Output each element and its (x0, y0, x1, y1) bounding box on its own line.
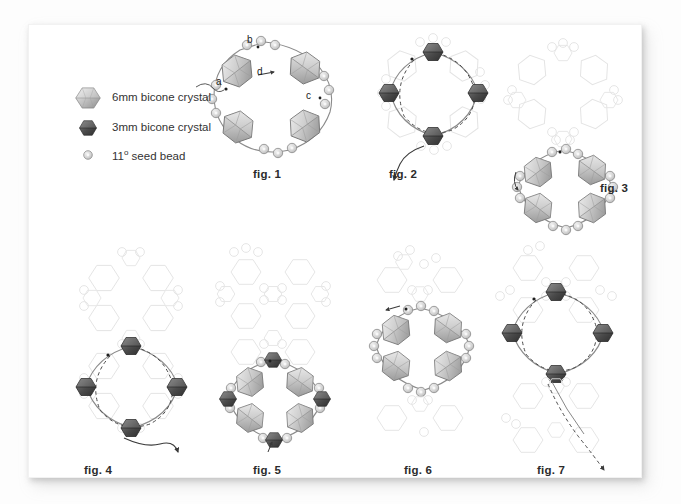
legend-label-6mm: 6mm bicone crystal (112, 91, 211, 103)
figure-label-5: fig. 5 (253, 464, 281, 476)
fig1-point-a: a (216, 76, 222, 87)
legend-label-3mm: 3mm bicone crystal (112, 121, 211, 133)
figure-label-6: fig. 6 (404, 464, 432, 476)
fig1-point-b: b (247, 34, 253, 45)
figure-label-7: fig. 7 (537, 464, 565, 476)
fig1-point-d: d (257, 66, 263, 77)
fig1-point-c: c (306, 90, 311, 101)
figure-label-2: fig. 2 (389, 168, 417, 180)
legend-seed-bead-suffix: seed bead (128, 150, 185, 162)
figure-label-1: fig. 1 (253, 168, 281, 180)
legend-label-seed-bead: 11o seed bead (112, 148, 185, 162)
figure-label-4: fig. 4 (84, 464, 112, 476)
figure-label-3: fig. 3 (600, 182, 628, 194)
legend-seed-bead-size: 11 (112, 150, 124, 162)
diagram-canvas: 6mm bicone crystal 3mm bicone crystal 11… (0, 0, 681, 504)
